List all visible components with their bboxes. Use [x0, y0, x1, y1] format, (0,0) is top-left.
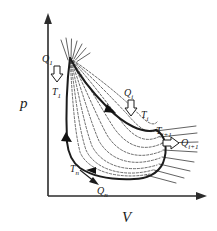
q1-heat-arrow-icon — [51, 66, 63, 82]
cycle-left-branch — [66, 58, 70, 142]
isotherm-curve — [70, 58, 162, 155]
ti-label: Ti — [141, 109, 149, 123]
tn-label: Tn — [70, 163, 80, 177]
t1-label: T1 — [52, 86, 61, 100]
qi-label: Qi — [124, 87, 133, 101]
x-axis-label: V — [122, 209, 133, 225]
pv-cycle-figure: p V Q1 T1 Qi Ti Ti+1 Qi+1 Tn Qn — [0, 0, 217, 231]
axes-group — [44, 13, 207, 200]
y-axis-label: p — [19, 95, 28, 111]
x-axis-arrowhead — [196, 192, 207, 200]
qi1-label: Qi+1 — [181, 137, 198, 151]
y-axis-arrowhead — [44, 13, 52, 24]
isotherm-tail — [154, 170, 184, 178]
flow-arrowhead-left — [61, 132, 72, 142]
pv-diagram-canvas: p V Q1 T1 Qi Ti Ti+1 Qi+1 Tn Qn — [0, 0, 217, 231]
qn-label: Qn — [97, 185, 108, 199]
isotherm-tail — [162, 157, 194, 162]
isotherm-tail — [159, 164, 190, 171]
isotherm-tail — [71, 39, 72, 59]
isotherm-tail — [77, 53, 90, 62]
isotherm-tail — [73, 41, 78, 59]
cycle-outline-group — [66, 58, 165, 179]
